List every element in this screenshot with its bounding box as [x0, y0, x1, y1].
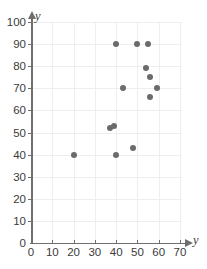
x-axis-tick	[180, 240, 181, 244]
y-axis-tick-label: 10	[0, 215, 26, 227]
data-point	[145, 41, 151, 47]
y-axis-tick-label: 40	[0, 149, 26, 161]
y-axis-tick-label: 0	[0, 237, 26, 249]
data-point	[111, 123, 117, 129]
data-point	[143, 65, 149, 71]
scatter-chart: 0102030405060700102030405060708090100 y …	[0, 0, 207, 269]
y-axis-tick-label: 70	[0, 82, 26, 94]
data-point	[120, 85, 126, 91]
y-axis-tick-label: 60	[0, 104, 26, 116]
data-point	[71, 152, 77, 158]
data-point	[113, 152, 119, 158]
y-axis-tick-label: 20	[0, 193, 26, 205]
y-axis-tick-label: 90	[0, 38, 26, 50]
x-axis-label: y	[193, 233, 199, 248]
y-axis-tick-label: 80	[0, 60, 26, 72]
y-axis-tick-label: 50	[0, 127, 26, 139]
data-point	[130, 145, 136, 151]
data-point	[147, 94, 153, 100]
x-axis-tick-label: 70	[165, 246, 195, 258]
data-point	[134, 41, 140, 47]
data-point	[147, 74, 153, 80]
y-axis-tick-label: 30	[0, 171, 26, 183]
data-point	[154, 85, 160, 91]
plot-area	[31, 22, 180, 243]
data-point	[113, 41, 119, 47]
y-axis-tick-label: 100	[0, 16, 26, 28]
